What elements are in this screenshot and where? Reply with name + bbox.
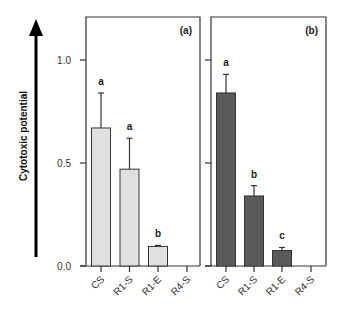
y-axis-label: Cytotoxic potential bbox=[18, 91, 29, 181]
panel-label: (b) bbox=[305, 25, 318, 36]
significance-letter: b bbox=[155, 228, 161, 239]
significance-letter: b bbox=[251, 169, 257, 180]
x-tick-label: R1-S bbox=[236, 273, 260, 297]
x-tick-label: R1-E bbox=[264, 273, 288, 297]
significance-letter: a bbox=[223, 57, 229, 68]
x-tick-label: CS bbox=[214, 273, 232, 291]
y-tick-label: 0.0 bbox=[57, 261, 71, 272]
bar-chart-figure: Cytotoxic potential 1.0 0.5 0.0 (a)CSaR1… bbox=[0, 0, 343, 318]
significance-letter: c bbox=[279, 230, 285, 241]
x-tick-label: CS bbox=[89, 273, 107, 291]
bar bbox=[245, 196, 264, 266]
bar bbox=[273, 251, 292, 266]
x-tick-label: R4-S bbox=[169, 273, 193, 297]
y-tick-label: 1.0 bbox=[57, 55, 71, 66]
significance-letter: a bbox=[98, 76, 104, 87]
cytotoxic-arrow-icon bbox=[29, 19, 43, 257]
panel-b: (b)CSaR1-SbR1-EcR4-S bbox=[205, 17, 326, 298]
x-tick-label: R1-S bbox=[111, 273, 135, 297]
panel-a: (a)CSaR1-SaR1-EbR4-S bbox=[80, 17, 200, 298]
y-tick-label: 0.5 bbox=[57, 158, 71, 169]
panel-label: (a) bbox=[180, 25, 192, 36]
bar bbox=[149, 246, 168, 266]
bar bbox=[217, 93, 236, 266]
bar bbox=[120, 169, 139, 266]
x-tick-label: R1-E bbox=[140, 273, 164, 297]
bar bbox=[92, 128, 111, 266]
x-tick-label: R4-S bbox=[293, 273, 317, 297]
significance-letter: a bbox=[127, 121, 133, 132]
